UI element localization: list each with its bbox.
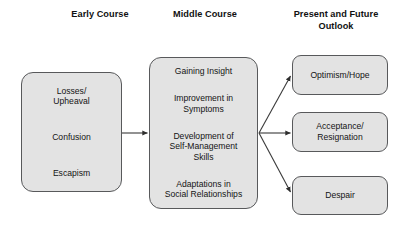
middle-course-box[interactable]: Gaining Insight Improvement in Symptoms …: [149, 57, 258, 209]
middle-course-item-gaining-insight: Gaining Insight: [175, 66, 232, 77]
outcome-label-line-1: Despair: [325, 190, 355, 201]
item-line-1: Escapism: [53, 168, 90, 179]
item-line-1: Losses/: [53, 86, 89, 97]
arrow-middle-to-optimism: [259, 76, 291, 133]
arrow-middle-to-despair: [259, 133, 291, 192]
outcome-label-line-1: Acceptance/: [316, 121, 363, 132]
column-header-early-course: Early Course: [46, 9, 154, 21]
early-course-item-escapism: Escapism: [53, 168, 90, 179]
item-line-2: Self-Management: [170, 141, 238, 152]
outcome-box-optimism-hope[interactable]: Optimism/Hope: [292, 55, 388, 95]
early-course-item-losses-upheaval: Losses/ Upheaval: [53, 86, 89, 107]
item-line-1: Improvement in: [174, 93, 233, 104]
item-line-3: Skills: [170, 152, 238, 163]
outcome-box-acceptance-resignation[interactable]: Acceptance/ Resignation: [292, 112, 388, 152]
column-header-line-2: Outlook: [318, 21, 353, 31]
middle-course-item-adaptations-social-relationships: Adaptations in Social Relationships: [165, 179, 242, 200]
early-course-item-confusion: Confusion: [52, 132, 91, 143]
item-line-2: Symptoms: [174, 104, 233, 115]
outcome-label-line-2: Resignation: [317, 132, 362, 143]
item-line-2: Upheaval: [53, 96, 89, 107]
outcome-box-despair[interactable]: Despair: [292, 176, 388, 215]
diagram-canvas: Early Course Middle Course Present and F…: [0, 0, 405, 232]
column-header-present-future-outlook: Present and Future Outlook: [282, 9, 390, 32]
early-course-box[interactable]: Losses/ Upheaval Confusion Escapism: [21, 72, 122, 192]
column-header-middle-course: Middle Course: [151, 9, 259, 21]
middle-course-item-improvement-in-symptoms: Improvement in Symptoms: [174, 93, 233, 114]
middle-course-item-development-self-management-skills: Development of Self-Management Skills: [170, 131, 238, 163]
item-line-1: Adaptations in: [165, 179, 242, 190]
column-header-line-1: Present and Future: [294, 9, 379, 19]
item-line-2: Social Relationships: [165, 189, 242, 200]
item-line-1: Gaining Insight: [175, 66, 232, 77]
item-line-1: Development of: [170, 131, 238, 142]
outcome-label-line-1: Optimism/Hope: [310, 70, 369, 81]
item-line-1: Confusion: [52, 132, 91, 143]
